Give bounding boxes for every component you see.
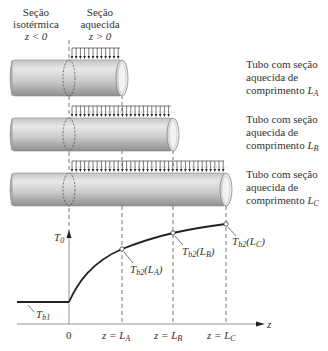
isothermal-line3: z < 0 <box>8 30 64 42</box>
outlet-temp-lc-label: Tb2(LC) <box>232 235 265 251</box>
outlet-temp-lb-label: Tb2(LB) <box>182 245 214 261</box>
tube-b-line1: Tubo com seção <box>246 113 318 126</box>
tube-a-line2: aquecida de <box>246 71 318 84</box>
y-axis-label: T0 <box>54 231 64 247</box>
tube-c-description: Tubo com seção aquecida de comprimento L… <box>246 168 319 210</box>
heated-line3: z > 0 <box>74 30 126 42</box>
outlet-temp-la-label: Tb2(LA) <box>130 263 162 279</box>
tube-a-line3: comprimento LA <box>246 84 318 100</box>
tube-b <box>10 118 179 167</box>
x-axis-arrow-icon <box>256 322 265 327</box>
tube-a-line1: Tubo com seção <box>246 58 318 71</box>
x-tick-0: 0 <box>66 329 72 341</box>
heated-section-label: Seção aquecida z > 0 <box>74 6 126 42</box>
x-tick-lc: z = LC <box>207 329 236 345</box>
tube-c-line1: Tubo com seção <box>246 168 319 181</box>
tube-a-description: Tubo com seção aquecida de comprimento L… <box>246 58 318 100</box>
isothermal-line1: Seção <box>8 6 64 18</box>
inlet-temp-label: Tb1 <box>36 308 50 324</box>
tube-b-line2: aquecida de <box>246 126 318 139</box>
tube-c-line3: comprimento LC <box>246 194 319 210</box>
isothermal-section-label: Seção isotérmica z < 0 <box>8 6 64 42</box>
x-axis-label: z <box>267 318 271 330</box>
tube-b-description: Tubo com seção aquecida de comprimento L… <box>246 113 318 155</box>
tube-b-line3: comprimento LB <box>246 139 318 155</box>
x-tick-lb: z = LB <box>154 329 182 345</box>
heated-line2: aquecida <box>74 18 126 30</box>
tube-c <box>10 173 232 206</box>
tube-c-line2: aquecida de <box>246 181 319 194</box>
isothermal-line2: isotérmica <box>8 18 64 30</box>
heated-line1: Seção <box>74 6 126 18</box>
x-tick-la: z = LA <box>102 329 130 345</box>
y-axis-arrow-icon <box>67 230 72 238</box>
